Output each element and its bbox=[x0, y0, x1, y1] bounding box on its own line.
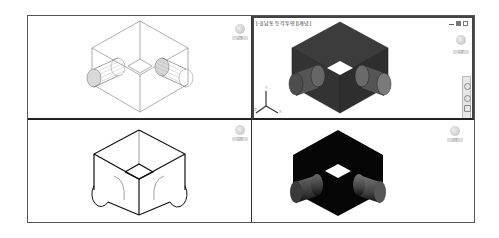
viewcube-label[interactable]: 남동 bbox=[232, 36, 248, 40]
viewport-bottom-left-hidden[interactable]: 남동 bbox=[28, 120, 252, 222]
ucs-axes-icon bbox=[256, 91, 278, 113]
ucs-z-label: Z bbox=[254, 107, 257, 112]
viewcube-icon[interactable] bbox=[450, 126, 460, 136]
wireframe-model bbox=[28, 16, 252, 120]
viewport-bottom-right-realistic[interactable]: 남동 bbox=[252, 120, 474, 222]
viewport-top-right-conceptual[interactable]: [-][남동 등각투영][개념] bbox=[252, 16, 474, 120]
ucs-x-label: X bbox=[279, 109, 282, 114]
viewcube-icon[interactable] bbox=[456, 35, 466, 45]
zoom-icon[interactable] bbox=[464, 105, 471, 112]
hidden-line-model bbox=[28, 120, 252, 222]
steering-wheel-icon[interactable] bbox=[464, 83, 471, 90]
viewcube-label[interactable]: 남동 bbox=[232, 137, 248, 141]
cylinder-right-icon bbox=[155, 58, 193, 87]
ucs-y-label: Y bbox=[264, 85, 268, 90]
viewcube-label[interactable]: 남동 bbox=[453, 50, 469, 54]
viewcube-icon[interactable] bbox=[235, 125, 245, 135]
pan-icon[interactable] bbox=[464, 95, 471, 102]
viewcube-icon[interactable] bbox=[235, 24, 245, 34]
viewport-top-left-wireframe[interactable]: 남동 bbox=[28, 16, 252, 120]
navigation-bar[interactable] bbox=[462, 76, 471, 120]
viewcube-label[interactable]: 남동 bbox=[447, 138, 463, 142]
shaded-model: Y Z X bbox=[254, 18, 474, 120]
cylinder-left-icon bbox=[87, 58, 125, 87]
viewport-grid: 남동 [-][남동 등각투영][개념] bbox=[27, 15, 475, 223]
realistic-model bbox=[252, 120, 474, 222]
